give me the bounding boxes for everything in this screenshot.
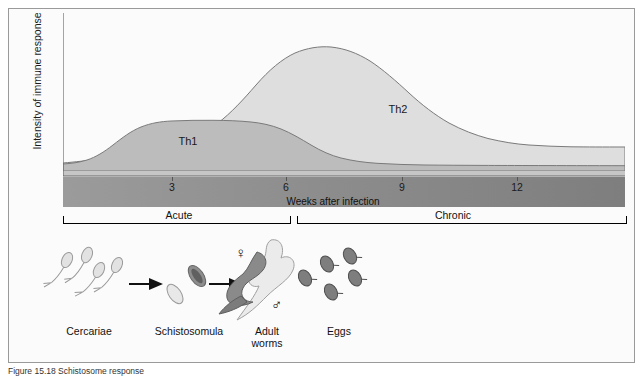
stage-label-adult-worms: Adult worms [252, 326, 283, 349]
baseline-band [63, 171, 625, 176]
y-axis-label: Intensity of immune response [31, 1, 43, 161]
figure-caption: Figure 15.18 Schistosome response [8, 366, 144, 376]
chronic-bracket [297, 216, 627, 224]
acute-bracket [63, 216, 291, 224]
immune-response-area-chart [63, 13, 625, 185]
eggs-illustration [296, 244, 368, 303]
cercariae-illustration [42, 243, 125, 303]
stage-label-eggs: Eggs [327, 326, 351, 338]
figure-frame: Intensity of immune response [8, 8, 635, 363]
tick-label-6: 6 [283, 181, 289, 193]
adult-worms-line1: Adult [252, 326, 283, 338]
male-symbol: ♂ [271, 296, 282, 313]
x-axis-title: Weeks after infection [286, 196, 379, 207]
lifecycle-diagram: ♀ ♂ Cercariae Schistosomula Adult worms … [9, 234, 636, 354]
th2-curve-label: Th2 [389, 103, 408, 115]
chart-area: Intensity of immune response [9, 9, 636, 224]
female-symbol: ♀ [235, 244, 246, 261]
th1-curve-label: Th1 [179, 135, 198, 147]
schistosomula-illustration [164, 262, 209, 306]
adult-worms-line2: worms [252, 338, 283, 350]
tick-label-9: 9 [399, 181, 405, 193]
tick-label-12: 12 [511, 181, 523, 193]
stage-label-schistosomula: Schistosomula [155, 326, 223, 338]
tick-label-3: 3 [169, 181, 175, 193]
stage-label-cercariae: Cercariae [66, 326, 112, 338]
plot-region: 3 6 9 12 Th1 Th2 Weeks after infection A… [63, 13, 625, 178]
adult-worms-illustration [219, 240, 294, 320]
